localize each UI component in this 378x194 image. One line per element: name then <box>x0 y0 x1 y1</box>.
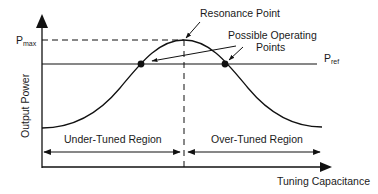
under-tuned-label: Under-Tuned Region <box>64 133 162 145</box>
tuning-diagram: Resonance Point Possible Operating Point… <box>0 0 378 194</box>
power-curve <box>42 40 322 128</box>
pmax-label: Pmax <box>16 34 37 47</box>
over-tuned-label: Over-Tuned Region <box>211 133 303 145</box>
operating-arrow-right <box>229 47 243 60</box>
x-axis-label: Tuning Capacitance <box>277 175 370 187</box>
pref-label: Pref <box>324 52 339 65</box>
y-axis-arrow-icon <box>36 14 48 28</box>
resonance-point-label: Resonance Point <box>200 7 280 19</box>
resonance-arrow <box>186 22 200 38</box>
x-axis-arrow-icon <box>320 162 332 172</box>
operating-point-left <box>138 61 145 68</box>
operating-arrow-left <box>152 46 236 61</box>
y-axis-label: Output Power <box>19 73 31 138</box>
operating-point-right <box>222 61 229 68</box>
possible-operating-label-line2: Points <box>256 41 285 53</box>
possible-operating-label-line1: Possible Operating <box>228 29 317 41</box>
